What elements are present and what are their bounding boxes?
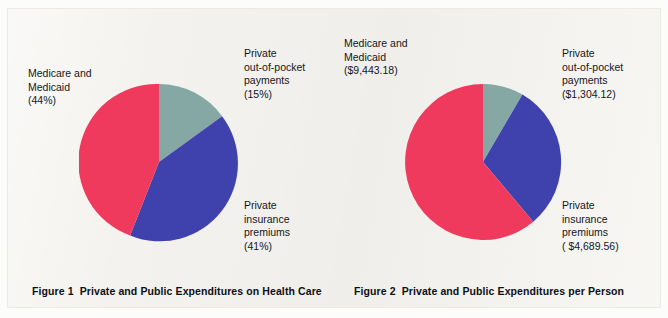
figure-2-panel: Medicare and Medicaid ($9,443.18) Privat… <box>326 9 660 307</box>
figure-1-panel: Medicare and Medicaid (44%) Private out-… <box>8 9 342 307</box>
figure-2-label-private-insurance: Private insurance premiums ( $4,689.56) <box>562 199 619 253</box>
figure-2-pie-chart <box>403 82 563 242</box>
figure-1-label-private-insurance: Private insurance premiums (41%) <box>244 199 290 253</box>
figure-2-label-out-of-pocket: Private out-of-pocket payments ($1,304.1… <box>562 47 623 101</box>
figure-1-pie-chart <box>79 82 239 242</box>
figure-2-label-medicare: Medicare and Medicaid ($9,443.18) <box>344 37 408 78</box>
figure-1-label-out-of-pocket: Private out-of-pocket payments (15%) <box>244 47 305 101</box>
figure-1-label-medicare: Medicare and Medicaid (44%) <box>28 67 92 108</box>
figure-1-caption: Figure 1 Private and Public Expenditures… <box>32 285 322 297</box>
figure-2-caption: Figure 2 Private and Public Expenditures… <box>354 285 624 297</box>
figure-page: Medicare and Medicaid (44%) Private out-… <box>0 0 668 318</box>
